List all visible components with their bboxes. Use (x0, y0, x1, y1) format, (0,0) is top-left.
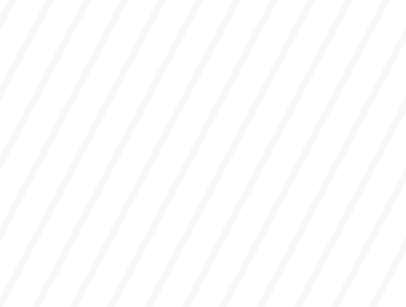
erp-figure (0, 0, 406, 307)
waveform-canvas (0, 0, 406, 307)
